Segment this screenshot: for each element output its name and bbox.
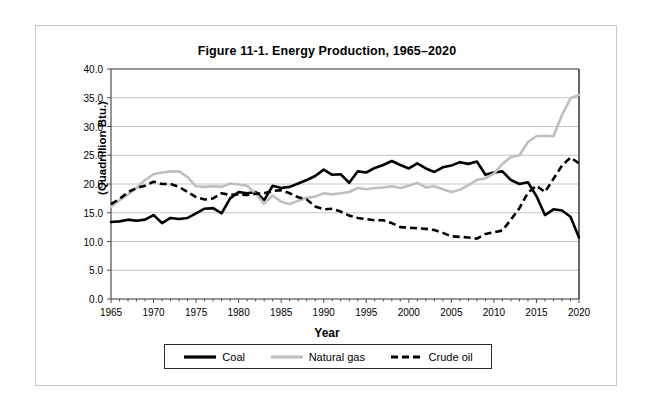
xtick-label: 1985 [270,307,292,318]
ytick-label: 30.0 [69,121,103,132]
xtick-label: 1980 [228,307,250,318]
ytick-label: 40.0 [69,64,103,75]
chart-plot-area [36,26,618,326]
ytick-label: 35.0 [69,92,103,103]
ytick-label: 15.0 [69,207,103,218]
ytick-label: 25.0 [69,150,103,161]
legend-swatch-solid [270,351,304,363]
ytick-label: 5.0 [69,265,103,276]
figure-frame: Figure 11-1. Energy Production, 1965–202… [35,25,617,386]
xtick-label: 1995 [355,307,377,318]
xtick-label: 2005 [440,307,462,318]
xtick-label: 1975 [185,307,207,318]
xtick-label: 1965 [100,307,122,318]
legend-label: Natural gas [309,351,365,363]
ytick-label: 20.0 [69,179,103,190]
series-line-natural-gas [111,95,579,207]
x-axis-label: Year [36,326,618,340]
legend-item-crude-oil[interactable]: Crude oil [390,351,473,363]
legend-item-coal[interactable]: Coal [183,351,245,363]
xtick-label: 2010 [483,307,505,318]
xtick-label: 2000 [398,307,420,318]
legend-swatch-dashed [390,351,424,363]
xtick-label: 2015 [525,307,547,318]
legend-item-natural-gas[interactable]: Natural gas [270,351,365,363]
chart-legend: CoalNatural gasCrude oil [164,344,492,369]
ytick-label: 10.0 [69,236,103,247]
ytick-label: 0.0 [69,294,103,305]
xtick-label: 1970 [142,307,164,318]
legend-label: Coal [222,351,245,363]
series-line-crude-oil [111,158,579,239]
xtick-label: 1990 [313,307,335,318]
xtick-label: 2020 [568,307,590,318]
legend-label: Crude oil [429,351,473,363]
legend-swatch-solid [183,351,217,363]
